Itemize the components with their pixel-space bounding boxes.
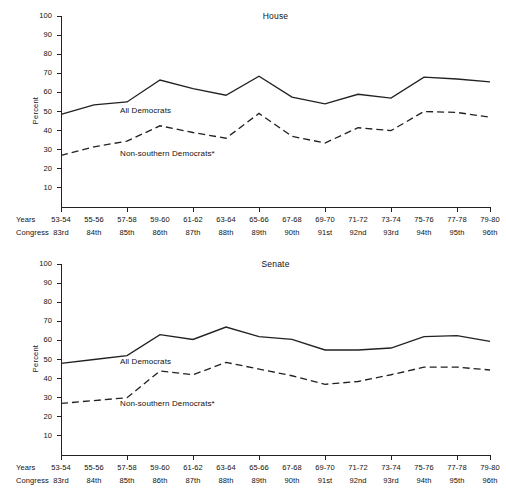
years-row-label: Years	[16, 215, 35, 224]
series-label-non-southern-democrats: Non-southern Democrats*	[120, 399, 215, 408]
series-label-all-democrats: All Democrats	[120, 106, 171, 115]
x-tick-label-years: 63-64	[209, 463, 243, 472]
x-tick-label-congress: 90th	[275, 476, 309, 485]
x-tick-label-congress: 88th	[209, 228, 243, 237]
x-tick-label-years: 59-60	[143, 215, 177, 224]
series-label-all-democrats: All Democrats	[120, 357, 171, 366]
x-tick-label-years: 65-66	[242, 215, 276, 224]
series-line-non-southern-democrats	[61, 362, 490, 403]
x-tick-label-congress: 94th	[407, 476, 441, 485]
x-tick-label-years: 71-72	[341, 215, 375, 224]
x-tick-label-congress: 84th	[77, 228, 111, 237]
x-tick-label-congress: 85th	[110, 476, 144, 485]
x-tick-label-congress: 91st	[308, 228, 342, 237]
x-tick-label-years: 53-54	[44, 215, 78, 224]
x-tick-label-years: 61-62	[176, 215, 210, 224]
x-tick-label-congress: 87th	[176, 228, 210, 237]
x-tick-label-years: 71-72	[341, 463, 375, 472]
x-tick-label-congress: 95th	[440, 476, 474, 485]
x-tick-label-congress: 83rd	[44, 228, 78, 237]
x-tick-label-congress: 93rd	[374, 476, 408, 485]
x-tick-label-years: 69-70	[308, 215, 342, 224]
x-tick-label-congress: 96th	[473, 476, 506, 485]
x-tick-label-years: 57-58	[110, 215, 144, 224]
x-tick-label-years: 53-54	[44, 463, 78, 472]
x-tick-label-congress: 95th	[440, 228, 474, 237]
x-tick-label-years: 69-70	[308, 463, 342, 472]
x-tick-label-years: 75-76	[407, 215, 441, 224]
x-tick-label-years: 77-78	[440, 215, 474, 224]
x-tick-label-years: 79-80	[473, 463, 506, 472]
x-tick-label-congress: 94th	[407, 228, 441, 237]
x-tick-label-years: 61-62	[176, 463, 210, 472]
x-tick-label-years: 67-68	[275, 463, 309, 472]
x-tick-label-congress: 86th	[143, 476, 177, 485]
x-tick-label-congress: 93rd	[374, 228, 408, 237]
x-tick-label-congress: 90th	[275, 228, 309, 237]
x-tick-label-years: 77-78	[440, 463, 474, 472]
x-tick-label-congress: 92nd	[341, 228, 375, 237]
chart-canvas	[0, 248, 506, 496]
chart-panel-senate: SenatePercent100908070605040302010All De…	[0, 248, 506, 496]
x-tick-label-years: 73-74	[374, 463, 408, 472]
x-tick-label-years: 63-64	[209, 215, 243, 224]
x-tick-label-years: 73-74	[374, 215, 408, 224]
x-tick-label-congress: 87th	[176, 476, 210, 485]
x-tick-label-congress: 91st	[308, 476, 342, 485]
x-tick-label-years: 55-56	[77, 215, 111, 224]
x-tick-label-years: 57-58	[110, 463, 144, 472]
x-tick-label-congress: 88th	[209, 476, 243, 485]
chart-canvas	[0, 0, 506, 248]
series-label-non-southern-democrats: Non-southern Democrats*	[120, 149, 215, 158]
years-row-label: Years	[16, 463, 35, 472]
x-tick-label-congress: 89th	[242, 476, 276, 485]
x-tick-label-years: 59-60	[143, 463, 177, 472]
x-tick-label-congress: 84th	[77, 476, 111, 485]
x-tick-label-congress: 96th	[473, 228, 506, 237]
x-tick-label-years: 55-56	[77, 463, 111, 472]
x-tick-label-years: 67-68	[275, 215, 309, 224]
x-tick-label-years: 65-66	[242, 463, 276, 472]
x-tick-label-congress: 86th	[143, 228, 177, 237]
x-tick-label-congress: 89th	[242, 228, 276, 237]
x-tick-label-congress: 85th	[110, 228, 144, 237]
x-tick-label-congress: 92nd	[341, 476, 375, 485]
x-tick-label-years: 75-76	[407, 463, 441, 472]
chart-panel-house: HousePercent100908070605040302010All Dem…	[0, 0, 506, 248]
x-tick-label-congress: 83rd	[44, 476, 78, 485]
x-tick-label-years: 79-80	[473, 215, 506, 224]
